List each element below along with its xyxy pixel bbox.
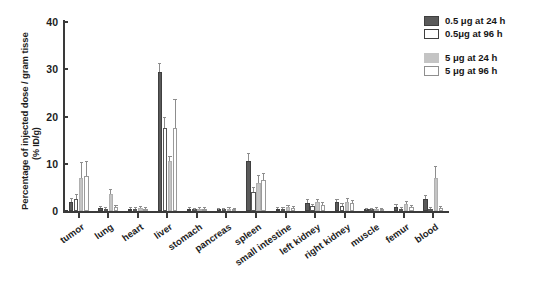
bar	[128, 209, 132, 211]
error-bar-cap	[252, 187, 255, 188]
error-bar-cap	[370, 208, 373, 209]
bar	[246, 161, 250, 211]
bar	[409, 207, 413, 211]
legend-item: 0.5 μg at 24 h	[424, 14, 556, 27]
error-bar	[430, 208, 431, 209]
bar	[256, 183, 260, 211]
bar	[114, 207, 118, 211]
error-bar-cap	[247, 153, 250, 154]
error-bar-cap	[114, 205, 117, 206]
error-bar-cap	[292, 206, 295, 207]
y-axis-title-units: (% ID/g)	[31, 127, 41, 160]
error-bar-cap	[139, 206, 142, 207]
error-bar-cap	[335, 199, 338, 200]
error-bar	[366, 209, 367, 210]
error-bar-cap	[311, 204, 314, 205]
error-bar-cap	[144, 207, 147, 208]
bar	[202, 209, 206, 211]
error-bar-cap	[321, 202, 324, 203]
bar-group	[128, 22, 148, 211]
bar-group	[305, 22, 325, 211]
error-bar	[376, 208, 377, 209]
bar-chart-figure: Percentage of injected dose / gram tisse…	[0, 0, 560, 285]
error-bar	[253, 188, 254, 192]
error-bar-cap	[394, 204, 397, 205]
bar	[350, 203, 354, 211]
bar	[423, 199, 427, 211]
legend-swatch-icon	[424, 29, 439, 39]
error-bar-cap	[405, 201, 408, 202]
bar	[227, 209, 231, 211]
error-bar	[175, 100, 176, 128]
error-bar	[322, 203, 323, 205]
error-bar	[76, 195, 77, 199]
x-tick-mark	[196, 213, 198, 218]
bar-group	[364, 22, 384, 211]
plot-area	[64, 22, 448, 211]
error-bar	[425, 196, 426, 199]
error-bar	[277, 208, 278, 209]
x-tick-mark	[78, 213, 80, 218]
error-bar-cap	[129, 207, 132, 208]
error-bar-cap	[281, 207, 284, 208]
error-bar	[145, 208, 146, 209]
chart-legend: 0.5 μg at 24 h0.5μg at 96 h5 μg at 24 h5…	[424, 14, 556, 88]
error-bar-cap	[306, 199, 309, 200]
error-bar-cap	[257, 175, 260, 176]
x-tick-mark	[403, 213, 405, 218]
error-bar	[440, 207, 441, 208]
error-bar	[199, 208, 200, 209]
bar	[143, 209, 147, 211]
error-bar	[435, 167, 436, 178]
error-bar-cap	[85, 161, 88, 162]
error-bar	[194, 209, 195, 210]
bar	[335, 202, 339, 211]
legend-item: 0.5μg at 96 h	[424, 27, 556, 40]
error-bar	[411, 206, 412, 207]
bar	[74, 199, 78, 211]
error-bar	[312, 205, 313, 206]
bar	[138, 208, 142, 211]
error-bar-cap	[233, 208, 236, 209]
error-bar	[110, 190, 111, 195]
bar-group	[217, 22, 237, 211]
bar-group	[246, 22, 266, 211]
error-bar	[229, 208, 230, 209]
x-tick-mark	[432, 213, 434, 218]
error-bar-cap	[80, 162, 83, 163]
error-bar-cap	[351, 200, 354, 201]
bar-group	[187, 22, 207, 211]
error-bar	[204, 208, 205, 209]
legend-group: 0.5 μg at 24 h0.5μg at 96 h	[424, 14, 556, 40]
x-tick-mark	[225, 213, 227, 218]
bar	[374, 209, 378, 211]
error-bar	[406, 202, 407, 204]
bar-group	[69, 22, 89, 211]
error-bar	[135, 208, 136, 209]
bar	[133, 209, 137, 211]
x-tick-mark	[373, 213, 375, 218]
y-tick-label: 40	[0, 16, 58, 28]
bar	[69, 202, 73, 211]
bar	[404, 204, 408, 211]
bar	[187, 209, 191, 211]
error-bar-cap	[75, 194, 78, 195]
error-bar	[307, 200, 308, 202]
bar	[340, 206, 344, 211]
bar	[98, 208, 102, 211]
error-bar-cap	[70, 198, 73, 199]
error-bar-cap	[380, 208, 383, 209]
error-bar-cap	[316, 199, 319, 200]
error-bar	[81, 163, 82, 178]
bar	[197, 209, 201, 211]
bar	[261, 180, 265, 211]
error-bar	[105, 208, 106, 209]
bar-group	[276, 22, 296, 211]
legend-label: 0.5μg at 96 h	[445, 28, 503, 39]
error-bar	[352, 201, 353, 203]
legend-swatch-icon	[424, 53, 439, 63]
bar	[291, 208, 295, 211]
error-bar-cap	[163, 117, 166, 118]
error-bar	[115, 206, 116, 207]
error-bar	[130, 208, 131, 209]
